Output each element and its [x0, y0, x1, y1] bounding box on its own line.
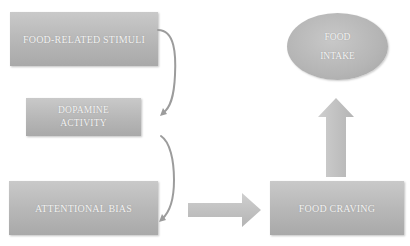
node-food-intake: FOOD INTAKE — [287, 13, 388, 80]
block-arrow-right-icon — [188, 193, 261, 227]
node-dopamine-activity: DOPAMINE ACTIVITY — [26, 98, 141, 136]
node-label-line-2: INTAKE — [320, 51, 355, 61]
curved-arrow-stimuli-to-dopamine — [158, 30, 175, 116]
node-food-related-stimuli: FOOD-RELATED STIMULI — [10, 12, 158, 66]
arrowhead-icon — [160, 108, 167, 116]
node-food-craving: FOOD CRAVING — [270, 181, 404, 235]
block-arrow-up-icon — [318, 98, 354, 177]
curved-arrow-dopamine-to-bias — [159, 136, 174, 222]
arrowhead-icon — [159, 214, 166, 222]
node-label-line-1: FOOD — [325, 32, 351, 42]
node-label: ATTENTIONAL BIAS — [35, 201, 132, 216]
node-label-line-1: DOPAMINE — [58, 104, 109, 117]
node-label-line-2: ACTIVITY — [58, 117, 109, 130]
node-attentional-bias: ATTENTIONAL BIAS — [9, 181, 158, 235]
node-label: FOOD CRAVING — [299, 201, 375, 216]
node-label: FOOD-RELATED STIMULI — [23, 32, 145, 47]
